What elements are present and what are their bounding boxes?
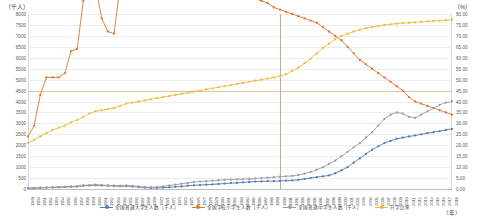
data-point bbox=[174, 183, 176, 185]
data-point bbox=[217, 179, 219, 181]
data-point bbox=[322, 166, 324, 168]
data-point bbox=[236, 178, 238, 180]
data-point bbox=[359, 142, 361, 144]
data-point bbox=[365, 153, 367, 155]
data-point bbox=[76, 185, 78, 187]
legend-item-2[interactable]: 全国学校小学生人数（千人） bbox=[192, 204, 271, 210]
data-point bbox=[279, 75, 281, 77]
data-point bbox=[316, 169, 318, 171]
data-point bbox=[414, 117, 416, 119]
data-point bbox=[64, 186, 66, 188]
data-point bbox=[180, 185, 182, 187]
data-point bbox=[316, 176, 318, 178]
data-point bbox=[27, 135, 29, 137]
left-axis-tick-label: 5000 bbox=[16, 77, 26, 82]
data-point bbox=[254, 177, 256, 179]
data-point bbox=[236, 83, 238, 85]
left-axis-tick-label: 3000 bbox=[16, 121, 26, 126]
chart-legend: 全国普通大学生人数（千人）全国学校小学生人数（千人）全国普通中学生人数（千人）升… bbox=[100, 202, 456, 212]
right-axis-tick-label: 40.00 bbox=[456, 99, 468, 104]
data-point bbox=[285, 11, 287, 13]
data-point bbox=[51, 76, 53, 78]
legend-item-1[interactable]: 全国普通大学生人数（千人） bbox=[100, 204, 179, 210]
legend-marker-icon bbox=[283, 205, 296, 210]
data-point bbox=[131, 101, 133, 103]
data-point bbox=[396, 85, 398, 87]
x-axis-tick-label: 1954 bbox=[60, 197, 65, 206]
left-axis-tick-label: 2000 bbox=[16, 143, 26, 148]
data-point bbox=[205, 180, 207, 182]
data-point bbox=[426, 132, 428, 134]
data-point bbox=[113, 107, 115, 109]
data-point bbox=[88, 112, 90, 114]
data-point bbox=[383, 24, 385, 26]
data-point bbox=[402, 112, 404, 114]
legend-marker-icon bbox=[100, 205, 113, 210]
right-axis-tick-label: 70.00 bbox=[456, 33, 468, 38]
data-point bbox=[365, 27, 367, 29]
data-point bbox=[328, 174, 330, 176]
legend-marker-icon bbox=[375, 205, 388, 210]
data-point bbox=[144, 99, 146, 101]
x-axis-tick-label: 1949 bbox=[30, 197, 35, 206]
data-point bbox=[408, 116, 410, 118]
data-point bbox=[242, 181, 244, 183]
data-point bbox=[223, 179, 225, 181]
data-point bbox=[70, 50, 72, 52]
data-point bbox=[451, 19, 453, 21]
data-point bbox=[328, 30, 330, 32]
data-point bbox=[70, 185, 72, 187]
data-point bbox=[285, 175, 287, 177]
data-point bbox=[279, 8, 281, 10]
data-point bbox=[389, 140, 391, 142]
data-point bbox=[82, 0, 84, 2]
series-3 bbox=[27, 100, 453, 189]
data-point bbox=[359, 157, 361, 159]
data-point bbox=[260, 180, 262, 182]
data-point bbox=[33, 124, 35, 126]
legend-label: 全国普通大学生人数（千人） bbox=[115, 204, 179, 210]
data-point bbox=[211, 180, 213, 182]
data-point bbox=[162, 96, 164, 98]
data-point bbox=[396, 22, 398, 24]
series-layer bbox=[28, 14, 452, 189]
data-point bbox=[322, 26, 324, 28]
legend-label: 全国学校小学生人数（千人） bbox=[207, 204, 271, 210]
data-point bbox=[316, 52, 318, 54]
data-point bbox=[451, 113, 453, 115]
data-point bbox=[82, 184, 84, 186]
data-point bbox=[408, 135, 410, 137]
data-point bbox=[180, 93, 182, 95]
data-point bbox=[346, 33, 348, 35]
data-point bbox=[39, 135, 41, 137]
data-point bbox=[346, 151, 348, 153]
chart-container: （千人） （%） （年） 800075007000650060005500500… bbox=[0, 0, 482, 219]
left-axis-tick-label: 6500 bbox=[16, 44, 26, 49]
data-point bbox=[439, 104, 441, 106]
data-point bbox=[230, 182, 232, 184]
data-point bbox=[113, 185, 115, 187]
data-point bbox=[137, 100, 139, 102]
data-point bbox=[193, 91, 195, 93]
legend-item-3[interactable]: 全国普通中学生人数（千人） bbox=[283, 204, 362, 210]
data-point bbox=[131, 185, 133, 187]
data-point bbox=[408, 96, 410, 98]
data-point bbox=[45, 186, 47, 188]
data-point bbox=[187, 185, 189, 187]
right-axis-tick-label: 30.00 bbox=[456, 121, 468, 126]
data-point bbox=[45, 76, 47, 78]
data-point bbox=[396, 111, 398, 113]
data-point bbox=[310, 19, 312, 21]
data-point bbox=[279, 180, 281, 182]
data-point bbox=[420, 133, 422, 135]
data-point bbox=[230, 84, 232, 86]
legend-label: 升学比率 bbox=[390, 204, 410, 210]
legend-item-4[interactable]: 升学比率 bbox=[375, 204, 410, 210]
plot-area bbox=[28, 14, 452, 189]
x-axis-tick-label: 1955 bbox=[66, 197, 71, 206]
data-point bbox=[445, 101, 447, 103]
right-axis-tick-label: 80.00 bbox=[456, 12, 468, 17]
data-point bbox=[199, 89, 201, 91]
data-point bbox=[334, 38, 336, 40]
data-point bbox=[125, 103, 127, 105]
